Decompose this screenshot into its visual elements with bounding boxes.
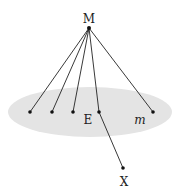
geometry-diagram: M E m X: [0, 0, 179, 195]
point-p2: [50, 110, 54, 114]
diagram-svg: M E m X: [0, 0, 179, 195]
label-x: X: [120, 175, 129, 189]
point-p1: [28, 110, 32, 114]
point-p5: [151, 110, 155, 114]
label-plane-m: m: [134, 113, 145, 127]
point-m: [87, 26, 91, 30]
label-e: E: [84, 113, 93, 127]
point-p3: [71, 110, 75, 114]
plane-m: [8, 87, 172, 137]
point-x: [121, 166, 125, 170]
label-m-point: M: [83, 12, 95, 26]
point-e: [97, 110, 101, 114]
